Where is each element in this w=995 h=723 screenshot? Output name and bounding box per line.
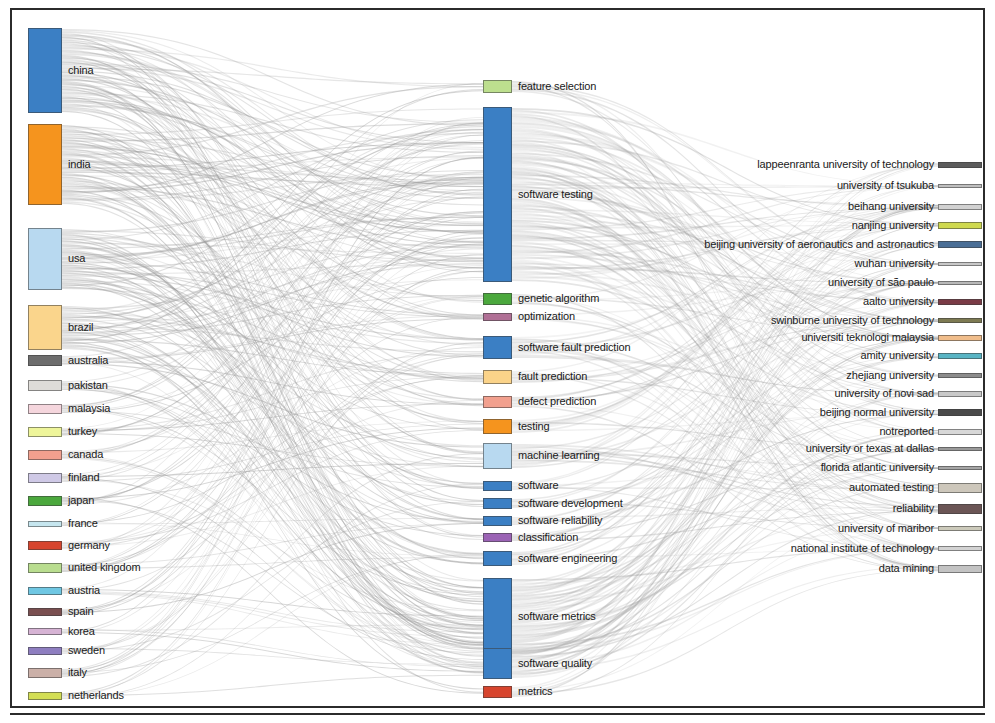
country-node[interactable] xyxy=(28,28,62,113)
country-label: pakistan xyxy=(68,380,108,391)
keyword-label: classification xyxy=(518,532,578,543)
sankey-link xyxy=(62,246,483,593)
country-label: united kingdom xyxy=(68,562,141,573)
country-label: finland xyxy=(68,472,99,483)
institution-node[interactable] xyxy=(938,546,982,551)
institution-node[interactable] xyxy=(938,565,982,573)
country-label: italy xyxy=(68,667,87,678)
country-node[interactable] xyxy=(28,692,62,700)
keyword-label: software quality xyxy=(518,658,592,669)
institution-node[interactable] xyxy=(938,299,982,305)
country-node[interactable] xyxy=(28,305,62,350)
country-node[interactable] xyxy=(28,404,62,414)
institution-node[interactable] xyxy=(938,241,982,248)
keyword-node[interactable] xyxy=(483,396,512,408)
sankey-figure: chinaindiausabrazilaustraliapakistanmala… xyxy=(0,0,995,723)
institution-label: reliability xyxy=(893,503,934,514)
keyword-node[interactable] xyxy=(483,80,512,93)
institution-node[interactable] xyxy=(938,466,982,470)
country-node[interactable] xyxy=(28,608,62,616)
country-node[interactable] xyxy=(28,496,62,506)
institution-label: notreported xyxy=(879,426,934,437)
institution-label: nanjing university xyxy=(852,220,934,231)
country-label: turkey xyxy=(68,426,97,437)
country-node[interactable] xyxy=(28,450,62,460)
keyword-node[interactable] xyxy=(483,551,512,566)
institution-node[interactable] xyxy=(938,281,982,285)
keyword-node[interactable] xyxy=(483,419,512,434)
keyword-label: software testing xyxy=(518,189,593,200)
country-node[interactable] xyxy=(28,228,62,290)
country-label: france xyxy=(68,518,98,529)
institution-label: lappeenranta university of technology xyxy=(757,159,934,170)
institution-label: wuhan university xyxy=(854,258,934,269)
institution-node[interactable] xyxy=(938,429,982,435)
keyword-node[interactable] xyxy=(483,481,512,491)
institution-node[interactable] xyxy=(938,353,982,359)
institution-node[interactable] xyxy=(938,204,982,210)
institution-label: florida atlantic university xyxy=(821,462,934,473)
keyword-node[interactable] xyxy=(483,516,512,526)
institution-label: beihang university xyxy=(848,201,934,212)
keyword-node[interactable] xyxy=(483,313,512,321)
institution-node[interactable] xyxy=(938,184,982,188)
institution-node[interactable] xyxy=(938,409,982,416)
country-node[interactable] xyxy=(28,563,62,573)
keyword-node[interactable] xyxy=(483,578,512,655)
country-label: usa xyxy=(68,253,85,264)
institution-label: zhejiang university xyxy=(846,370,934,381)
country-label: malaysia xyxy=(68,403,110,414)
keyword-node[interactable] xyxy=(483,443,512,469)
institution-label: aalto university xyxy=(863,296,934,307)
keyword-label: software reliability xyxy=(518,515,602,526)
country-node[interactable] xyxy=(28,380,62,391)
institution-label: university or texas at dallas xyxy=(806,443,934,454)
institution-node[interactable] xyxy=(938,391,982,397)
keyword-label: fault prediction xyxy=(518,371,587,382)
keyword-node[interactable] xyxy=(483,498,512,509)
country-node[interactable] xyxy=(28,124,62,205)
institution-node[interactable] xyxy=(938,262,982,266)
institution-node[interactable] xyxy=(938,447,982,451)
institution-label: university of são paulo xyxy=(828,277,934,288)
country-node[interactable] xyxy=(28,541,62,550)
keyword-label: genetic algorithm xyxy=(518,293,599,304)
country-node[interactable] xyxy=(28,587,62,595)
institution-label: beijing university of aeronautics and as… xyxy=(704,239,934,250)
country-label: austria xyxy=(68,585,100,596)
keyword-node[interactable] xyxy=(483,293,512,305)
institution-node[interactable] xyxy=(938,335,982,341)
institution-label: university of tsukuba xyxy=(837,180,934,191)
keyword-node[interactable] xyxy=(483,370,512,384)
keyword-node[interactable] xyxy=(483,686,512,698)
country-node[interactable] xyxy=(28,521,62,527)
keyword-node[interactable] xyxy=(483,107,512,282)
keyword-label: defect prediction xyxy=(518,396,596,407)
sankey-link xyxy=(62,346,483,650)
institution-node[interactable] xyxy=(938,504,982,514)
institution-node[interactable] xyxy=(938,373,982,378)
keyword-node[interactable] xyxy=(483,533,512,542)
institution-node[interactable] xyxy=(938,162,982,168)
institution-node[interactable] xyxy=(938,222,982,229)
keyword-label: software metrics xyxy=(518,611,596,622)
country-node[interactable] xyxy=(28,668,62,678)
country-label: japan xyxy=(68,495,94,506)
institution-label: beijing normal university xyxy=(820,407,934,418)
keyword-label: software xyxy=(518,480,558,491)
country-label: sweden xyxy=(68,645,105,656)
country-node[interactable] xyxy=(28,628,62,635)
country-label: germany xyxy=(68,540,110,551)
country-node[interactable] xyxy=(28,647,62,655)
institution-node[interactable] xyxy=(938,318,982,323)
country-node[interactable] xyxy=(28,427,62,437)
country-node[interactable] xyxy=(28,355,62,366)
keyword-node[interactable] xyxy=(483,336,512,359)
keyword-label: machine learning xyxy=(518,450,599,461)
institution-label: automated testing xyxy=(849,482,934,493)
institution-node[interactable] xyxy=(938,483,982,493)
country-node[interactable] xyxy=(28,473,62,483)
keyword-node[interactable] xyxy=(483,648,512,679)
institution-label: national institute of technology xyxy=(791,543,934,554)
institution-node[interactable] xyxy=(938,526,982,531)
